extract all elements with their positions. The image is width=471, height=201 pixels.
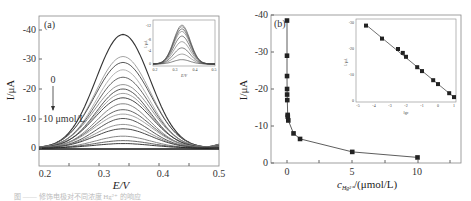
- b-ytick-1: -10: [255, 120, 268, 131]
- svg-text:E/V: E/V: [180, 73, 188, 78]
- svg-text:0.5: 0.5: [212, 67, 217, 72]
- a-xtick-0: 0.2: [39, 168, 52, 179]
- svg-text:I/μA: I/μA: [343, 58, 348, 66]
- b-xtick-2: 10: [412, 166, 422, 177]
- b-panel-label: (b): [274, 18, 286, 30]
- b-xlabel: cHg²⁺/(μmol/L): [337, 178, 398, 191]
- b-xtick-1: 5: [350, 166, 355, 177]
- a-xlabel: E/V: [112, 179, 131, 191]
- svg-text:0.4: 0.4: [193, 67, 198, 72]
- svg-text:0.2: 0.2: [153, 67, 158, 72]
- svg-text:0: 0: [352, 98, 354, 103]
- svg-text:-20: -20: [349, 46, 354, 51]
- svg-text:-4: -4: [372, 103, 375, 108]
- svg-text:lgc: lgc: [404, 110, 409, 115]
- figure: 0 -10 -20 -30 -40 0.2 0.3 0.4 0.5 E/V I/…: [0, 0, 471, 201]
- a-xtick-2: 0.4: [157, 168, 170, 179]
- arrow-head-icon: [51, 106, 55, 111]
- svg-text:-10: -10: [349, 72, 354, 77]
- arrow-end-label: 10 μmol/L: [43, 113, 85, 124]
- svg-text:I/μA: I/μA: [143, 40, 148, 48]
- arrow-start-label: 0: [51, 74, 56, 85]
- a-panel-label: (a): [44, 19, 55, 31]
- svg-text:1: 1: [453, 103, 455, 108]
- panel-b-x-ticks: 0 5 10: [285, 160, 451, 177]
- b-ylabel: I/μA: [237, 80, 249, 101]
- svg-text:0: 0: [149, 61, 151, 66]
- svg-text:-12: -12: [146, 23, 151, 28]
- a-ytick-4: -40: [23, 24, 36, 35]
- figure-caption: 图 —— 修饰电极对不同浓度 Hg²⁺ 的响应: [14, 191, 141, 201]
- a-ytick-3: -30: [23, 53, 36, 64]
- svg-text:-4: -4: [148, 48, 151, 53]
- b-ytick-4: -40: [255, 9, 268, 20]
- a-ytick-2: -20: [23, 83, 36, 94]
- svg-text:-2: -2: [404, 103, 407, 108]
- a-xtick-3: 0.5: [213, 168, 226, 179]
- b-ytick-0: 0: [263, 157, 268, 168]
- panel-b-inset: 0 -10 -20 -30 -5 -4 -3 -2 -1 0 1 lgc I/μ…: [343, 19, 456, 115]
- panel-b: 0 -10 -20 -30 -40 0 5 10 cHg²⁺/(μmol/L) …: [237, 9, 461, 191]
- a-ytick-0: 0: [31, 142, 36, 153]
- b-xtick-0: 0: [285, 166, 290, 177]
- svg-text:-3: -3: [388, 103, 391, 108]
- a-ylabel: I/μA: [4, 80, 16, 101]
- b-ytick-2: -20: [255, 83, 268, 94]
- panel-a-x-ticks: 0.2 0.3 0.4 0.5: [39, 163, 226, 179]
- svg-text:0.3: 0.3: [173, 67, 178, 72]
- svg-text:-5: -5: [356, 103, 359, 108]
- svg-text:0: 0: [437, 103, 439, 108]
- panel-a-inset: -12 -8 -4 0 0.2 0.3 0.4 0.5 E/V I/μA: [143, 20, 217, 78]
- panel-a: 0 -10 -20 -30 -40 0.2 0.3 0.4 0.5 E/V I/…: [4, 16, 225, 191]
- a-xtick-1: 0.3: [98, 168, 111, 179]
- svg-text:-30: -30: [349, 20, 354, 25]
- svg-text:-8: -8: [148, 37, 151, 42]
- a-ytick-1: -10: [23, 113, 36, 124]
- b-ytick-3: -30: [255, 46, 268, 57]
- svg-text:-1: -1: [420, 103, 423, 108]
